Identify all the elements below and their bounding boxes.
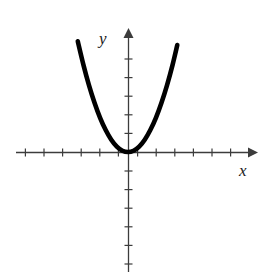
graph-canvas: x y <box>0 0 265 276</box>
parabola-figure: x y <box>0 0 265 276</box>
x-axis-label: x <box>238 161 247 180</box>
y-axis-label: y <box>97 29 107 48</box>
figure-background <box>0 0 265 276</box>
